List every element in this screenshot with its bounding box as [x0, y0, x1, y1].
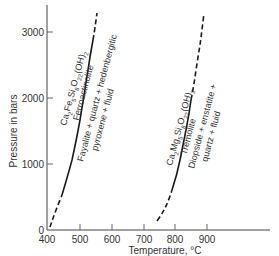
pressure-temperature-chart: 3000 2000 1000 0 400 500 600 700 800 900… — [0, 0, 279, 256]
y-tick-3000: 3000 — [22, 27, 45, 38]
y-tick-2000: 2000 — [22, 93, 45, 104]
y-tick-labels: 3000 2000 1000 0 — [22, 27, 45, 236]
x-tick-800: 800 — [167, 234, 184, 245]
x-tick-labels: 400 500 600 700 800 900 — [39, 234, 216, 245]
y-tick-1000: 1000 — [22, 159, 45, 170]
x-tick-400: 400 — [39, 234, 56, 245]
y-axis-title: Pressure in bars — [8, 95, 19, 168]
x-tick-700: 700 — [136, 234, 153, 245]
x-axis-title: Temperature, °C — [129, 245, 202, 256]
tremolite-curve — [157, 13, 204, 221]
y-ticks — [47, 32, 53, 164]
x-ticks — [80, 224, 207, 230]
x-tick-500: 500 — [72, 234, 89, 245]
x-tick-600: 600 — [104, 234, 121, 245]
x-tick-900: 900 — [199, 234, 216, 245]
